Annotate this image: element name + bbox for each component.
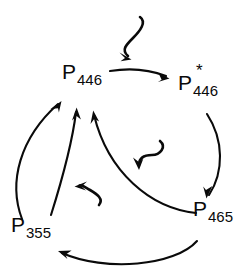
p446-excited-superscript-star: * bbox=[196, 61, 203, 80]
photon-arrow-top bbox=[120, 17, 143, 61]
species-label-p446-excited: P * 446 bbox=[178, 61, 218, 99]
p446-ground-base: P bbox=[62, 60, 76, 83]
transition-p465-to-p446 bbox=[91, 111, 197, 214]
photocycle-canvas: P 446 P * 446 P 465 P 355 bbox=[0, 0, 245, 280]
species-label-p446-ground: P 446 bbox=[62, 60, 102, 88]
p446-excited-base: P bbox=[178, 71, 192, 94]
p446-ground-subscript: 446 bbox=[77, 71, 102, 88]
transition-p446star-to-p465 bbox=[203, 114, 220, 199]
photon-arrow-lower-left bbox=[75, 182, 101, 206]
arrowhead-p465-to-p355 bbox=[58, 250, 72, 259]
p355-base: P bbox=[11, 213, 25, 236]
arc-p465-to-p355 bbox=[62, 241, 197, 264]
transition-p465-to-p355 bbox=[58, 241, 197, 264]
species-label-p355: P 355 bbox=[11, 213, 51, 241]
arc-p446star-to-p465 bbox=[207, 114, 220, 195]
transition-p355-to-p446-inner bbox=[51, 108, 81, 216]
squiggle-photon-middle bbox=[139, 141, 163, 165]
arc-p355-to-p446-outer bbox=[16, 104, 58, 219]
arrowhead-p355-to-p446-inner bbox=[72, 108, 81, 121]
p465-subscript: 465 bbox=[208, 208, 233, 225]
p446-excited-subscript: 446 bbox=[193, 82, 218, 99]
arc-p465-to-p446 bbox=[94, 115, 196, 213]
species-label-p465: P 465 bbox=[193, 197, 233, 225]
p355-subscript: 355 bbox=[26, 224, 51, 241]
arc-p355-to-p446-inner bbox=[51, 112, 76, 215]
arc-p446-to-p446star bbox=[110, 69, 166, 76]
squiggle-photon-top bbox=[125, 17, 143, 56]
p465-base: P bbox=[193, 197, 207, 220]
transition-p446-to-p446star bbox=[110, 69, 170, 82]
photocycle-diagram: P 446 P * 446 P 465 P 355 bbox=[0, 0, 245, 280]
photon-arrow-middle bbox=[133, 141, 163, 170]
